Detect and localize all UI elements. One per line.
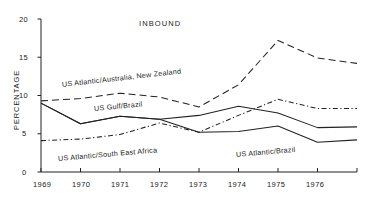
- series-line-2: [41, 99, 357, 140]
- series-line-3: [41, 103, 357, 142]
- series-line-0: [41, 40, 357, 107]
- chart-figure: PERCENTAGE 0 5 10 15 20 1969 1970 1971 1…: [0, 0, 378, 207]
- chart-plot-area: [0, 0, 378, 207]
